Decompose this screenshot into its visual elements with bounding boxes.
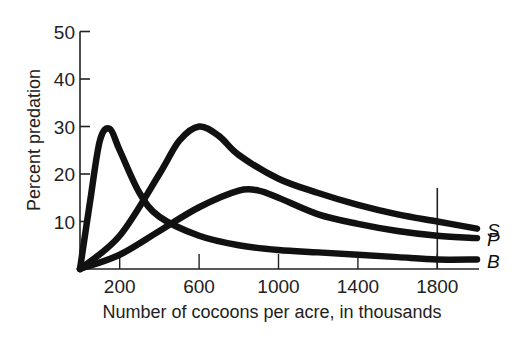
x-tick-label: 1000 <box>257 276 299 297</box>
y-tick-label: 50 <box>54 22 75 43</box>
x-tick-label: 1400 <box>337 276 379 297</box>
curves <box>80 126 477 269</box>
series-label-b: B <box>487 251 500 272</box>
predation-chart: 1020304050200600100014001800SPBNumber of… <box>0 0 517 340</box>
x-axis-title: Number of cocoons per acre, in thousands <box>102 302 441 322</box>
x-tick-label: 200 <box>104 276 136 297</box>
y-tick-label: 10 <box>54 212 75 233</box>
y-axis-title: Percent predation <box>24 69 44 211</box>
series-label-p: P <box>487 229 500 250</box>
y-tick-label: 20 <box>54 164 75 185</box>
x-tick-label: 1800 <box>416 276 458 297</box>
y-tick-label: 40 <box>54 69 75 90</box>
x-tick-label: 600 <box>183 276 215 297</box>
y-tick-label: 30 <box>54 117 75 138</box>
